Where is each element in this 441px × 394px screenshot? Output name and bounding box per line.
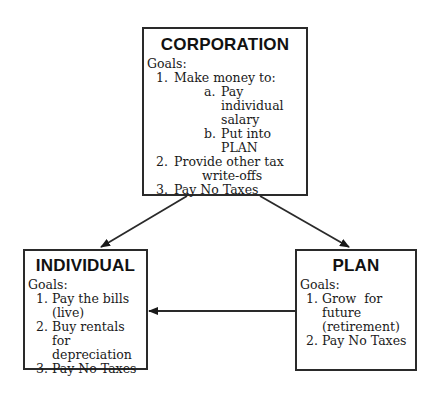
individual-goals-label: Goals: [28, 278, 146, 292]
corporation-title: CORPORATION [144, 35, 306, 55]
corporation-goal-3: 3. Pay No Taxes [174, 183, 306, 197]
corporation-box: CORPORATION Goals: 1. Make money to: a. … [142, 27, 308, 196]
plan-title: PLAN [297, 256, 415, 276]
arrow-corporation-to-plan [260, 196, 349, 247]
plan-goal-1-cont: future [322, 306, 415, 320]
plan-goal-1: 1. Grow for [322, 292, 415, 306]
individual-goal-3: 3. Pay No Taxes [52, 362, 146, 376]
individual-goal-1-cont: (live) [52, 306, 146, 320]
corporation-goals-label: Goals: [147, 57, 306, 71]
corporation-goal-1a-cont: salary [221, 113, 306, 127]
corporation-goal-1b: b. Put into PLAN [221, 127, 306, 155]
corporation-goal-1: 1. Make money to: [174, 71, 306, 85]
individual-goal-2-cont: depreciation [52, 348, 146, 362]
corporation-goal-1a: a. Pay individual [221, 85, 306, 113]
corporation-goal-2: 2. Provide other tax [174, 155, 306, 169]
corporation-goal-2-cont: write-offs [202, 169, 306, 183]
plan-box: PLAN Goals: 1. Grow for future (retireme… [295, 249, 417, 371]
plan-goals-label: Goals: [300, 278, 415, 292]
plan-goal-2: 2. Pay No Taxes [322, 334, 415, 348]
individual-box: INDIVIDUAL Goals: 1. Pay the bills (live… [23, 249, 148, 370]
arrow-corporation-to-individual [101, 196, 187, 247]
plan-goal-1-cont-2: (retirement) [322, 320, 415, 334]
individual-goal-1: 1. Pay the bills [52, 292, 146, 306]
individual-title: INDIVIDUAL [25, 256, 146, 276]
individual-goal-2: 2. Buy rentals for [52, 320, 146, 348]
